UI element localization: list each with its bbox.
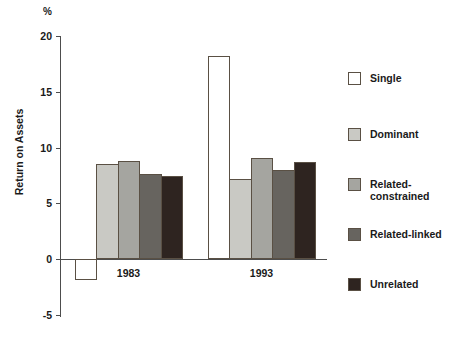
- y-tick-label: 20: [26, 30, 52, 42]
- legend-item[interactable]: Related- constrained: [348, 178, 430, 202]
- y-tick-label: 0: [26, 253, 52, 265]
- bar: [208, 56, 230, 259]
- legend-swatch-icon: [348, 228, 361, 241]
- bar: [294, 162, 316, 259]
- legend-label: Dominant: [370, 128, 418, 140]
- y-tick-label: 5: [26, 197, 52, 209]
- legend-item[interactable]: Dominant: [348, 128, 418, 141]
- legend-label: Related- constrained: [370, 178, 430, 202]
- legend-swatch-icon: [348, 178, 361, 191]
- y-tick-label: 10: [26, 142, 52, 154]
- bar: [161, 176, 183, 259]
- bar: [229, 179, 251, 259]
- legend-label: Single: [370, 72, 402, 84]
- bar: [118, 161, 140, 259]
- legend-item[interactable]: Unrelated: [348, 278, 418, 291]
- legend-item[interactable]: Related-linked: [348, 228, 442, 241]
- y-tick-label: 15: [26, 86, 52, 98]
- x-axis-group-label: 1983: [99, 267, 159, 279]
- bar: [272, 170, 294, 259]
- bar: [96, 164, 118, 259]
- legend-label: Unrelated: [370, 278, 418, 290]
- y-axis-unit-label: %: [30, 6, 52, 17]
- legend-swatch-icon: [348, 278, 361, 291]
- legend-swatch-icon: [348, 128, 361, 141]
- bar: [75, 259, 97, 280]
- bar-chart: % Return on Assets -505101520 19831993 S…: [0, 0, 455, 351]
- y-axis-title: Return on Assets: [13, 77, 25, 227]
- legend-label: Related-linked: [370, 228, 442, 240]
- legend-item[interactable]: Single: [348, 72, 402, 85]
- x-axis-group-label: 1993: [232, 267, 292, 279]
- y-tick-label: -5: [26, 309, 52, 321]
- bar: [251, 158, 273, 259]
- bar: [139, 174, 161, 259]
- legend-swatch-icon: [348, 72, 361, 85]
